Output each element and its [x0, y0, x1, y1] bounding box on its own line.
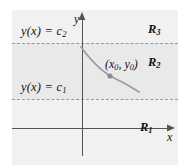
region-label-r1: R1 [140, 120, 153, 135]
point-marker [107, 73, 112, 78]
equilibrium-upper-label-text: y(x) = c [21, 24, 62, 38]
x-axis-label: x [167, 130, 172, 145]
point-label: (x0, y0) [105, 57, 138, 72]
equilibrium-lower-label-subscript: 1 [62, 85, 66, 95]
equilibrium-upper-label: y(x) = c2 [21, 24, 67, 39]
region-label-r2-subscript: 2 [156, 60, 160, 70]
figure-container: y(x) = c2 y(x) = c1 R3 R2 R1 (x0, y0) y … [0, 0, 185, 165]
y-axis-label: y [74, 12, 79, 27]
equilibrium-lower-label-text: y(x) = c [21, 80, 62, 94]
region-label-r2: R2 [148, 55, 161, 70]
region-label-r3-subscript: 3 [156, 27, 160, 37]
region-label-r3: R3 [148, 22, 161, 37]
point-label-close: ) [134, 57, 138, 71]
equilibrium-upper-label-subscript: 2 [62, 29, 66, 39]
region-label-r1-subscript: 1 [148, 125, 152, 135]
y-axis-arrowhead [79, 12, 86, 20]
equilibrium-lower-label: y(x) = c1 [21, 80, 67, 95]
